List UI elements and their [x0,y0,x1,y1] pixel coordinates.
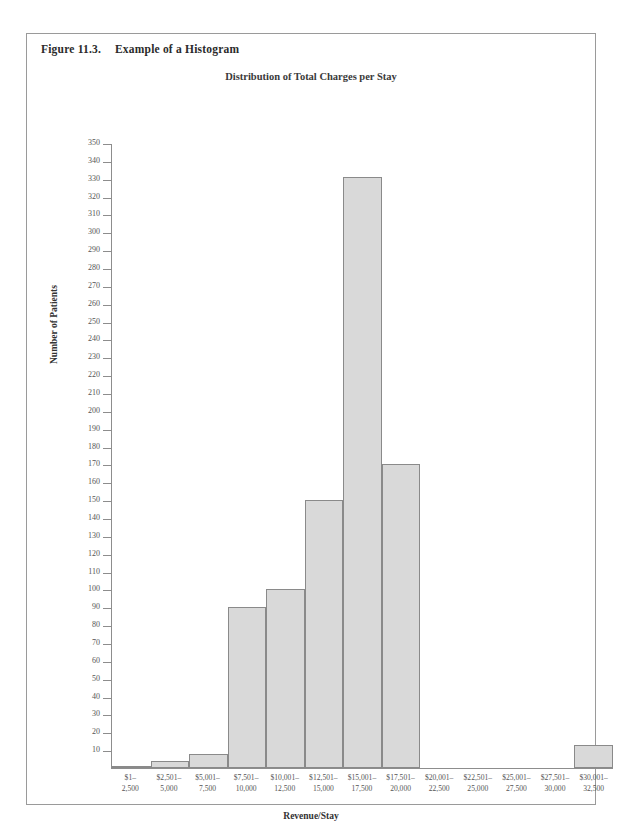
y-axis-tick-label: 300 [88,227,100,236]
histogram-bar [189,754,228,768]
y-axis-tick: 30 [103,715,111,716]
histogram-bar [228,607,267,768]
bar-slot [189,144,228,768]
y-axis-tick: 310 [103,215,111,216]
x-axis-tick-label: $17,501–20,000 [381,773,420,794]
y-axis-tick-label: 330 [88,174,100,183]
y-axis-tick-label: 170 [88,459,100,468]
x-axis-tick-label: $22,501–25,000 [458,773,497,794]
y-axis-tick-label: 70 [92,638,100,647]
y-axis-tick-label: 60 [92,656,100,665]
y-axis-tick: 110 [103,573,111,574]
bar-slot [343,144,382,768]
x-axis-line [111,768,613,769]
y-axis-tick-label: 210 [88,388,100,397]
plot-area: 3503403303203103002902802702602502402302… [111,144,613,769]
x-axis-tick-label: $10,001–12,500 [265,773,304,794]
y-axis-tick: 280 [103,269,111,270]
histogram-bar [305,500,344,768]
y-axis-tick-label: 200 [88,406,100,415]
y-axis-tick-label: 80 [92,620,100,629]
y-axis-tick: 150 [103,501,111,502]
y-axis-tick: 70 [103,644,111,645]
bar-slot [382,144,421,768]
y-axis-tick-label: 290 [88,245,100,254]
y-axis-tick-label: 340 [88,156,100,165]
y-axis-tick-label: 20 [92,727,100,736]
y-axis-tick: 300 [103,233,111,234]
figure-frame: Figure 11.3.Example of a Histogram Distr… [26,33,596,805]
y-axis-tick-label: 310 [88,209,100,218]
y-axis-tick: 140 [103,519,111,520]
bar-slot [497,144,536,768]
y-axis-tick: 90 [103,608,111,609]
x-axis-tick-label: $30,001–32,500 [574,773,613,794]
y-axis-tick-label: 40 [92,692,100,701]
histogram-bar [151,761,190,768]
figure-number: Figure 11.3. [41,43,115,55]
y-axis-tick-label: 140 [88,513,100,522]
y-axis-tick: 210 [103,394,111,395]
y-axis-tick-label: 220 [88,370,100,379]
y-axis-tick: 40 [103,698,111,699]
y-axis-tick: 350 [103,144,111,145]
bar-slot [459,144,498,768]
y-axis-tick-label: 250 [88,317,100,326]
x-axis-tick-label: $5,001–7,500 [188,773,227,794]
bar-slot [574,144,613,768]
figure-caption-text: Example of a Histogram [115,43,239,55]
y-axis-tick: 160 [103,483,111,484]
histogram-bar [343,177,382,768]
y-axis-tick: 330 [103,180,111,181]
y-axis-tick: 240 [103,340,111,341]
y-axis-tick-label: 160 [88,477,100,486]
bar-slot [266,144,305,768]
y-axis-tick: 230 [103,358,111,359]
y-axis-tick: 10 [103,751,111,752]
bar-slot [305,144,344,768]
y-axis-tick-label: 100 [88,584,100,593]
y-axis-tick: 60 [103,662,111,663]
chart-title: Distribution of Total Charges per Stay [27,71,595,82]
y-axis-tick: 80 [103,626,111,627]
y-axis-tick: 50 [103,680,111,681]
y-axis-tick: 120 [103,555,111,556]
histogram-bar [382,464,421,768]
y-axis-tick-label: 110 [88,567,100,576]
x-axis-tick-label: $7,501–10,000 [227,773,266,794]
y-axis-tick-label: 10 [92,745,100,754]
histogram-bar [266,589,305,768]
y-axis-tick-label: 130 [88,531,100,540]
figure-caption: Figure 11.3.Example of a Histogram [41,43,239,55]
bar-slot [112,144,151,768]
bar-series [112,144,613,768]
y-axis-tick: 340 [103,162,111,163]
y-axis-tick: 200 [103,412,111,413]
y-axis-tick-label: 50 [92,674,100,683]
y-axis-tick: 170 [103,465,111,466]
y-axis-tick: 290 [103,251,111,252]
y-axis-tick-label: 150 [88,495,100,504]
histogram-bar [112,766,151,768]
x-axis-tick-label: $1–2,500 [111,773,150,794]
y-axis-tick-label: 230 [88,352,100,361]
y-axis-title: Number of Patients [49,285,59,364]
y-axis-tick: 320 [103,198,111,199]
y-axis-tick: 20 [103,733,111,734]
y-axis-tick: 220 [103,376,111,377]
y-axis-tick-label: 190 [88,424,100,433]
bar-slot [536,144,575,768]
y-axis-tick: 250 [103,323,111,324]
x-axis-title: Revenue/Stay [27,811,595,821]
x-axis-tick-label: $15,001–17,500 [343,773,382,794]
x-axis-tick-label: $20,001–22,500 [420,773,459,794]
y-axis-tick-label: 280 [88,263,100,272]
bar-slot [151,144,190,768]
y-axis-tick-label: 180 [88,442,100,451]
x-axis-tick-label: $12,501–15,000 [304,773,343,794]
y-axis-tick: 180 [103,448,111,449]
bar-slot [420,144,459,768]
y-axis-tick-label: 270 [88,281,100,290]
y-axis-tick-label: 320 [88,192,100,201]
y-axis-tick-label: 120 [88,549,100,558]
